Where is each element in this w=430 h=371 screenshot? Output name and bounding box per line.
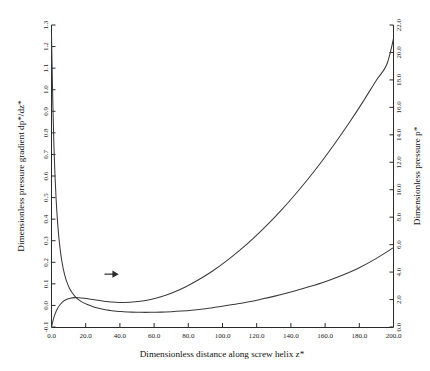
right-axis-title: Dimensionless pressure p*: [412, 126, 422, 225]
left-tick-label: 0.8: [42, 128, 50, 137]
right-tick-label: 4.0: [395, 267, 403, 276]
right-tick-label: 0.0: [395, 322, 403, 331]
x-tick-label: 0.0: [47, 332, 56, 340]
x-tick-label: 160.0: [317, 332, 333, 340]
right-axis-group: 0.02.04.06.08.010.012.014.016.018.020.02…: [390, 18, 423, 331]
x-tick-label: 120.0: [249, 332, 265, 340]
series-pressure-curve: [52, 39, 394, 327]
right-tick-label: 18.0: [395, 73, 403, 86]
left-tick-label: 0.2: [42, 257, 50, 266]
chart-canvas: -0.10.00.10.20.30.40.50.60.70.80.91.01.1…: [0, 0, 430, 371]
left-tick-label: 0.9: [42, 106, 50, 115]
x-tick-label: 60.0: [148, 332, 161, 340]
right-tick-label: 6.0: [395, 240, 403, 249]
series-pressure-gradient-curve: [52, 35, 394, 313]
chart-figure: -0.10.00.10.20.30.40.50.60.70.80.91.01.1…: [0, 0, 430, 371]
left-tick-label: 1.1: [42, 63, 50, 72]
x-tick-label: 180.0: [351, 332, 367, 340]
x-axis-tick-labels: 0.020.040.060.080.0100.0120.0140.0160.01…: [47, 332, 402, 340]
arrow-head: [113, 272, 118, 277]
left-tick-label: 1.3: [42, 20, 50, 29]
left-tick-label: 1.2: [42, 42, 50, 51]
left-axis-title: Dimensionless pressure gradient dp*/dz*: [16, 100, 26, 252]
series-group: [52, 35, 394, 327]
x-axis-ticks: [52, 323, 394, 327]
right-tick-label: 20.0: [395, 46, 403, 59]
right-tick-label: 8.0: [395, 212, 403, 221]
left-tick-label: 0.0: [42, 301, 50, 310]
x-tick-label: 200.0: [386, 332, 402, 340]
left-tick-label: 0.3: [42, 236, 50, 245]
right-tick-label: 16.0: [395, 101, 403, 114]
right-axis-tick-labels: 0.02.04.06.08.010.012.014.016.018.020.02…: [395, 18, 403, 331]
left-axis-group: -0.10.00.10.20.30.40.50.60.70.80.91.01.1…: [16, 20, 56, 332]
x-tick-label: 20.0: [80, 332, 93, 340]
left-tick-label: 0.7: [42, 150, 50, 159]
x-tick-label: 100.0: [215, 332, 231, 340]
left-tick-label: 0.4: [42, 214, 50, 223]
right-tick-label: 10.0: [395, 183, 403, 196]
right-tick-label: 12.0: [395, 156, 403, 169]
right-tick-label: 14.0: [395, 128, 403, 141]
x-axis-title: Dimensionless distance along screw helix…: [140, 349, 305, 359]
left-tick-label: 0.6: [42, 171, 50, 180]
right-tick-label: 22.0: [395, 18, 403, 31]
x-tick-label: 80.0: [182, 332, 195, 340]
right-axis-ticks: [390, 25, 394, 327]
annotation-arrow: [105, 272, 118, 277]
x-tick-label: 40.0: [114, 332, 127, 340]
left-tick-label: -0.1: [42, 321, 50, 333]
left-tick-label: 0.1: [42, 279, 50, 288]
left-tick-label: 0.5: [42, 193, 50, 202]
left-axis-tick-labels: -0.10.00.10.20.30.40.50.60.70.80.91.01.1…: [42, 20, 50, 332]
left-tick-label: 1.0: [42, 85, 50, 94]
x-axis-group: 0.020.040.060.080.0100.0120.0140.0160.01…: [47, 323, 402, 359]
x-tick-label: 140.0: [283, 332, 299, 340]
right-tick-label: 2.0: [395, 295, 403, 304]
